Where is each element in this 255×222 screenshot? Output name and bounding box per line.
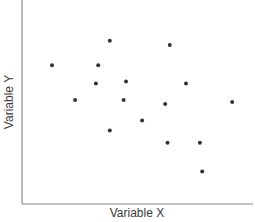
data-point — [200, 169, 204, 173]
data-point — [230, 100, 234, 104]
data-point — [163, 102, 167, 106]
scatter-chart: Variable X Variable Y — [0, 0, 255, 222]
data-point — [73, 98, 77, 102]
data-point — [122, 98, 126, 102]
data-point — [166, 141, 170, 145]
data-points — [50, 39, 234, 174]
data-point — [124, 80, 128, 84]
data-point — [108, 39, 112, 43]
data-point — [168, 43, 172, 47]
data-point — [198, 141, 202, 145]
data-point — [94, 82, 98, 86]
data-point — [140, 118, 144, 122]
data-point — [96, 63, 100, 67]
y-axis-label: Variable Y — [2, 75, 16, 129]
plot-area — [22, 0, 253, 204]
data-point — [184, 82, 188, 86]
x-axis-label: Variable X — [110, 206, 164, 220]
data-point — [50, 63, 54, 67]
data-point — [108, 129, 112, 133]
